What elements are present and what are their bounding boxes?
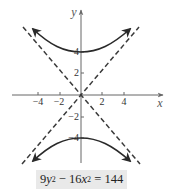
hyperbola-plot: −4 −2 2 4 x 4 2 −2 −4 y: [0, 0, 172, 191]
x-axis-label: x: [156, 96, 163, 110]
y-tick-label: 2: [74, 67, 79, 78]
x-tick-label: 4: [122, 96, 127, 107]
caption-op: =: [91, 172, 104, 187]
x-tick-label: 2: [100, 96, 105, 107]
x-tick-label: −2: [54, 96, 65, 107]
y-axis-label: y: [70, 5, 77, 19]
caption-op: −: [56, 172, 69, 187]
caption-coef: 16: [69, 172, 82, 187]
x-tick-label: −4: [33, 96, 44, 107]
equation-caption: 9y2 − 16x2 = 144: [36, 170, 127, 189]
caption-rhs: 144: [104, 172, 123, 187]
y-tick-label: −2: [68, 111, 79, 122]
x-axis: −4 −2 2 4 x: [12, 92, 163, 110]
